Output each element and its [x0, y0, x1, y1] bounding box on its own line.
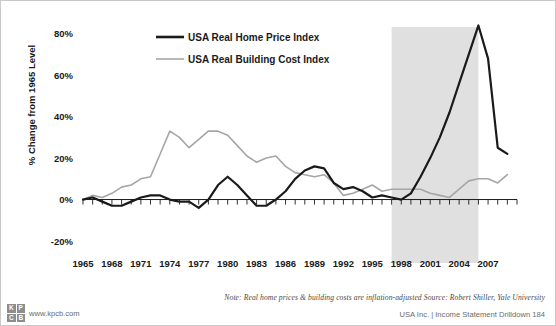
x-tick-label: 1977 — [188, 258, 209, 269]
logo-letter-p: P — [17, 304, 26, 313]
y-axis-title: % Change from 1965 Level — [26, 45, 37, 165]
logo-letter-c: C — [7, 314, 16, 323]
brand-footer: K P C B www.kpcb.com — [7, 304, 80, 322]
chart-source-note: Note: Real home prices & building costs … — [224, 293, 545, 302]
x-tick-label: 1974 — [159, 258, 181, 269]
legend-label: USA Real Building Cost Index — [188, 54, 330, 65]
logo-letter-k: K — [7, 304, 16, 313]
x-tick-label: 1986 — [275, 258, 296, 269]
y-tick-label: 20% — [54, 153, 74, 164]
x-tick-label: 1989 — [304, 258, 325, 269]
brand-url-label: www.kpcb.com — [29, 309, 80, 318]
y-tick-label: 60% — [54, 70, 74, 81]
x-tick-label: 2004 — [449, 258, 471, 269]
x-tick-label: 1980 — [217, 258, 238, 269]
deck-footer: USA Inc. | Income Statement Drilldown 18… — [400, 310, 545, 319]
y-tick-label: -20% — [51, 236, 74, 247]
x-tick-label: 1992 — [333, 258, 354, 269]
x-tick-label: 1965 — [72, 258, 94, 269]
slide-canvas: -20%0%20%40%60%80%% Change from 1965 Lev… — [0, 0, 556, 326]
x-tick-label: 1995 — [362, 258, 384, 269]
logo-letter-b: B — [17, 314, 26, 323]
kpcb-logo-icon: K P C B — [7, 304, 25, 322]
x-tick-label: 2007 — [477, 258, 498, 269]
y-tick-label: 0% — [59, 194, 73, 205]
chart-container: -20%0%20%40%60%80%% Change from 1965 Lev… — [1, 1, 556, 291]
x-tick-label: 1968 — [101, 258, 122, 269]
legend-label: USA Real Home Price Index — [188, 32, 320, 43]
x-tick-label: 1971 — [130, 258, 152, 269]
y-tick-label: 40% — [54, 111, 74, 122]
x-tick-label: 2001 — [420, 258, 442, 269]
y-tick-label: 80% — [54, 28, 74, 39]
x-tick-label: 1998 — [391, 258, 412, 269]
line-chart-svg: -20%0%20%40%60%80%% Change from 1965 Lev… — [1, 1, 556, 291]
x-tick-label: 1983 — [246, 258, 267, 269]
